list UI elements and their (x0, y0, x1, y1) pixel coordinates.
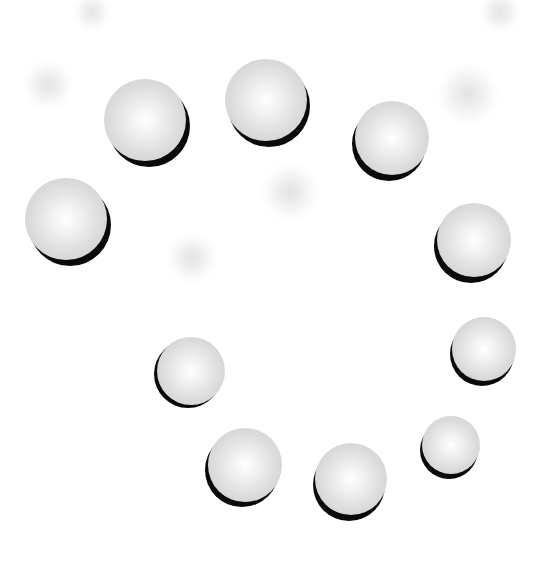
background-blur-blob (480, 0, 520, 32)
sphere (25, 178, 107, 260)
background-blur-blob (262, 164, 318, 220)
sphere (437, 203, 511, 277)
background-blur-blob (24, 61, 72, 109)
sphere (225, 59, 307, 141)
background-blur-blob (74, 0, 110, 30)
sphere (452, 317, 516, 381)
sphere (104, 79, 186, 161)
sphere (315, 443, 387, 515)
sphere-scene (0, 0, 549, 562)
sphere (355, 101, 429, 175)
background-blur-blob (438, 64, 498, 124)
sphere (208, 428, 282, 502)
sphere (157, 337, 225, 405)
sphere (422, 416, 480, 474)
background-blur-blob (168, 234, 216, 282)
